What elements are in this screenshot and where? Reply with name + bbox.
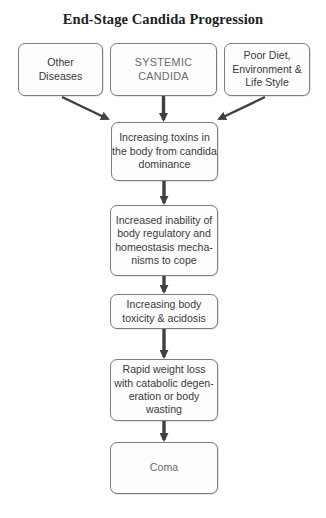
arrow-poordiet-to-toxins (219, 97, 265, 119)
node-label: Other Diseases (39, 56, 83, 83)
node-toxins: Increasing toxins in the body from candi… (111, 122, 218, 181)
node-label: Increasing toxins in the body from candi… (112, 131, 217, 171)
node-label: SYSTEMIC CANDIDA (135, 56, 193, 83)
node-toxicity-acidosis: Increasing body toxicity & acidosis (110, 294, 218, 329)
node-label: Increased inability of body regulatory a… (115, 214, 213, 268)
node-regulatory-inability: Increased inability of body regulatory a… (110, 205, 218, 276)
node-systemic-candida: SYSTEMIC CANDIDA (110, 43, 217, 96)
node-label: Coma (150, 461, 178, 474)
node-label: Increasing body toxicity & acidosis (122, 298, 206, 325)
arrow-other-to-toxins (62, 97, 108, 119)
node-weight-loss: Rapid weight loss with catabolic degen- … (110, 359, 218, 421)
node-label: Poor Diet, Environment & Life Style (232, 49, 301, 89)
node-poor-diet: Poor Diet, Environment & Life Style (224, 43, 310, 96)
node-coma: Coma (110, 442, 218, 494)
node-other-diseases: Other Diseases (18, 43, 103, 96)
diagram-title: End-Stage Candida Progression (0, 11, 326, 28)
node-label: Rapid weight loss with catabolic degen- … (114, 363, 214, 417)
